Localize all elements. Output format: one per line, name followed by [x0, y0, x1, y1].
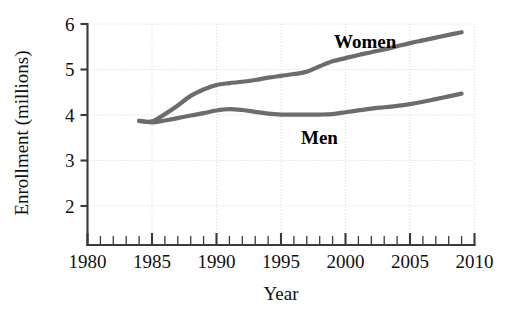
gridlines — [88, 24, 475, 245]
x-axis-tick-label: 1985 — [133, 251, 171, 272]
y-axis-tick-label: 3 — [65, 150, 75, 171]
x-axis-tick-label: 2010 — [456, 251, 494, 272]
y-axis-tick-label: 6 — [65, 14, 75, 35]
y-axis-tick-label: 2 — [65, 196, 75, 217]
series-label-women: Women — [334, 31, 397, 52]
y-axis-tick-label: 5 — [65, 59, 75, 80]
chart-figure: 23456 1980198519901995200020052010 Women… — [0, 0, 524, 320]
y-axis-tick-label: 4 — [65, 105, 75, 126]
series-label-men: Men — [301, 127, 338, 148]
x-axis-tick-label: 1995 — [262, 251, 300, 272]
series-annotations: WomenMen — [301, 31, 397, 148]
y-axis-title: Enrollment (millions) — [11, 50, 33, 215]
line-chart: 23456 1980198519901995200020052010 Women… — [0, 0, 524, 320]
data-series — [139, 32, 462, 122]
x-axis-title: Year — [263, 283, 299, 304]
x-axis-tick-label: 1990 — [198, 251, 236, 272]
x-axis-tick-label: 2000 — [327, 251, 365, 272]
series-line-women — [139, 32, 462, 122]
x-axis-tick-label: 2005 — [391, 251, 429, 272]
x-axis-ticks — [88, 233, 475, 245]
x-axis-tick-labels: 1980198519901995200020052010 — [69, 251, 494, 272]
x-axis-tick-label: 1980 — [69, 251, 107, 272]
y-axis-tick-labels: 23456 — [65, 14, 75, 217]
